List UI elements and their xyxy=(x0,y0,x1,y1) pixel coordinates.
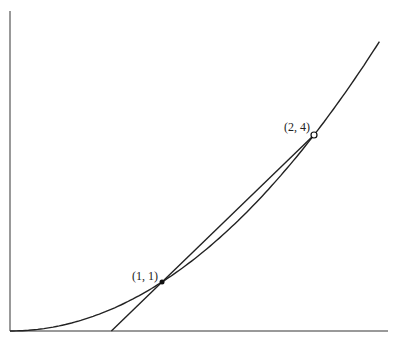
secant-diagram: (1, 1) (2, 4) xyxy=(0,0,398,343)
parabola-curve xyxy=(10,42,379,331)
point-label-2-4: (2, 4) xyxy=(284,120,310,134)
point-1-1-filled xyxy=(160,280,165,285)
point-2-4-open xyxy=(311,132,317,138)
secant-line xyxy=(111,135,314,331)
point-label-1-1: (1, 1) xyxy=(132,269,158,283)
